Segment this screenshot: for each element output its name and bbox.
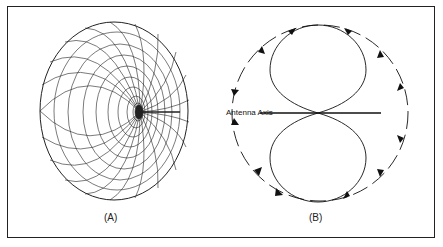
diagram-svg — [0, 0, 443, 247]
panel-b-label: (B) — [309, 212, 322, 223]
panel-a-label: (A) — [104, 212, 117, 223]
antenna-axis-label: Antenna Axis — [226, 108, 273, 117]
doughnut-pattern-3d — [40, 22, 189, 200]
figure-eight-pattern-2d — [260, 25, 381, 202]
